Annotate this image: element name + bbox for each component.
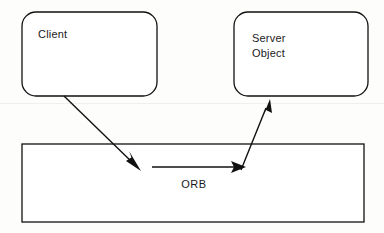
node-client[interactable]: Client xyxy=(22,12,157,96)
node-server-object[interactable]: Server Object xyxy=(234,12,368,96)
diagram-svg: Client Server Object ORB xyxy=(0,0,384,233)
server-object-label-line1: Server xyxy=(252,32,286,44)
client-label: Client xyxy=(38,28,67,40)
node-orb[interactable]: ORB xyxy=(22,144,364,222)
orb-label: ORB xyxy=(181,178,207,190)
diagram-canvas: Client Server Object ORB xyxy=(0,0,384,233)
client-box-shape xyxy=(22,12,157,96)
server-object-label-line2: Object xyxy=(252,47,285,59)
